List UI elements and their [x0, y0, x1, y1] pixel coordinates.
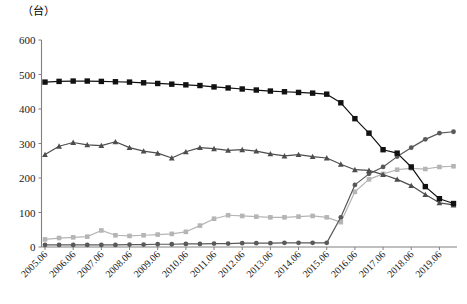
series-light-square-marker	[254, 214, 259, 219]
x-tick-label-group: 2005.062006.062007.062008.062009.062010.…	[19, 249, 444, 280]
series-black-square-marker	[113, 79, 118, 84]
series-black-square-marker	[437, 196, 442, 201]
series-black-square-marker	[380, 147, 385, 152]
y-tick-label: 400	[19, 103, 36, 115]
series-black-square-marker	[155, 81, 160, 86]
series-black-square-marker	[99, 79, 104, 84]
series-dark-circle-marker	[409, 145, 414, 150]
series-dark-triangle-marker	[42, 152, 48, 157]
series-black-square	[42, 78, 456, 206]
series-light-square-marker	[99, 228, 104, 233]
series-dark-circle-marker	[71, 243, 76, 248]
series-light-square-marker	[212, 216, 217, 221]
x-tick-label: 2017.06	[357, 249, 388, 280]
x-tick-label: 2016.06	[329, 249, 360, 280]
y-tick-label: 300	[19, 138, 36, 150]
series-black-square-marker	[183, 82, 188, 87]
series-dark-circle-marker	[338, 215, 343, 220]
series-dark-circle-marker	[183, 241, 188, 246]
series-black-square-marker	[282, 89, 287, 94]
series-dark-circle	[43, 129, 456, 247]
series-light-square-marker	[71, 235, 76, 240]
series-dark-circle-marker	[296, 240, 301, 245]
series-dark-circle-marker	[85, 243, 90, 248]
chart-container: （台） 0100200300400500600 2005.062006.0620…	[0, 0, 467, 304]
series-black-square-marker	[70, 78, 75, 83]
x-tick-label: 2005.06	[19, 249, 50, 280]
x-tick-label: 2009.06	[131, 249, 162, 280]
series-dark-circle-marker	[352, 183, 357, 188]
series-light-square-marker	[353, 190, 358, 195]
series-black-square-marker	[169, 81, 174, 86]
series-dark-circle-marker	[437, 131, 442, 136]
series-light-square-marker	[155, 232, 160, 237]
series-black-square-marker	[366, 130, 371, 135]
series-dark-circle-marker	[423, 137, 428, 142]
series-light-square	[43, 164, 456, 242]
series-light-square-marker	[127, 234, 132, 239]
series-light-square-marker	[169, 232, 174, 237]
series-dark-circle-marker	[155, 242, 160, 247]
y-tick-label: 600	[19, 34, 36, 46]
series-light-square-marker	[43, 237, 48, 242]
series-black-square-marker	[352, 116, 357, 121]
x-tick-label: 2019.06	[413, 249, 444, 280]
series-black-square-marker	[394, 150, 399, 155]
series-light-square-marker	[141, 233, 146, 238]
x-tick-label: 2014.06	[272, 249, 303, 280]
series-dark-triangle	[42, 139, 456, 208]
x-tick-label: 2008.06	[103, 249, 134, 280]
x-tick-label: 2007.06	[75, 249, 106, 280]
x-tick-label: 2013.06	[244, 249, 275, 280]
series-dark-circle-marker	[282, 240, 287, 245]
series-dark-circle-marker	[43, 243, 48, 248]
series-dark-circle-marker	[57, 243, 62, 248]
y-tick-label: 0	[30, 241, 36, 253]
series-light-square-marker	[184, 230, 189, 235]
x-tick-label: 2018.06	[385, 249, 416, 280]
series-light-square-marker	[437, 165, 442, 170]
x-tick-label: 2006.06	[47, 249, 78, 280]
series-dark-circle-marker	[226, 241, 231, 246]
series-black-square-line	[45, 81, 454, 203]
series-dark-circle-marker	[169, 242, 174, 247]
y-tick-label: 100	[19, 207, 36, 219]
series-black-square-marker	[240, 86, 245, 91]
series-black-square-marker	[211, 84, 216, 89]
series-dark-circle-marker	[141, 242, 146, 247]
series-black-square-marker	[268, 88, 273, 93]
series-black-square-marker	[141, 80, 146, 85]
series-light-square-marker	[282, 215, 287, 220]
y-tick-label: 200	[19, 172, 36, 184]
series-black-square-marker	[310, 90, 315, 95]
series-dark-circle-marker	[113, 243, 118, 248]
series-black-square-marker	[85, 78, 90, 83]
x-axis-group	[42, 247, 458, 250]
series-dark-triangle-marker	[338, 161, 344, 166]
x-tick-label: 2011.06	[188, 249, 219, 280]
series-black-square-marker	[197, 83, 202, 88]
series-dark-circle-marker	[198, 241, 203, 246]
series-light-square-marker	[423, 167, 428, 172]
series-light-square-marker	[85, 234, 90, 239]
series-black-square-marker	[127, 79, 132, 84]
line-chart-plot: 0100200300400500600 2005.062006.062007.0…	[0, 0, 467, 304]
series-dark-circle-marker	[324, 240, 329, 245]
series-black-square-marker	[296, 90, 301, 95]
y-tick-label: 500	[19, 69, 36, 81]
series-light-square-marker	[57, 236, 62, 241]
y-tick-group: 0100200300400500600	[19, 34, 42, 253]
x-tick-label: 2015.06	[300, 249, 331, 280]
series-light-square-marker	[451, 164, 456, 169]
series-light-square-marker	[113, 233, 118, 238]
series-black-square-marker	[56, 79, 61, 84]
series-dark-triangle-marker	[113, 139, 119, 144]
series-dark-triangle-marker	[422, 192, 428, 197]
series-dark-circle-marker	[127, 242, 132, 247]
series-black-square-marker	[423, 184, 428, 189]
series-light-square-marker	[367, 177, 372, 182]
series-light-square-marker	[310, 214, 315, 219]
series-dark-circle-marker	[268, 241, 273, 246]
series-dark-triangle-line	[45, 142, 454, 205]
series-black-square-marker	[409, 164, 414, 169]
